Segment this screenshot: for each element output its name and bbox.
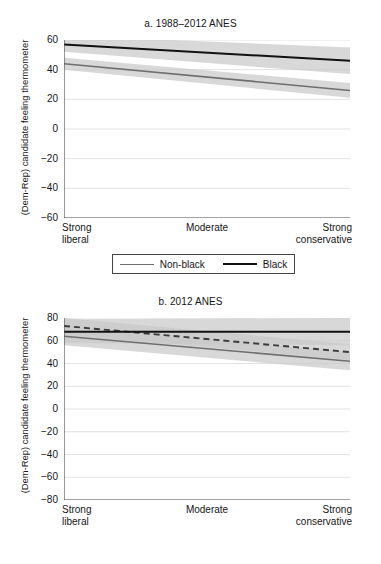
x-tick-label-line: liberal [62,516,162,528]
legend-swatch-icon [120,264,154,265]
y-tick-label: 20 [28,94,58,104]
x-tick-label-line: Moderate [157,222,257,234]
y-tick-label: −60 [28,213,58,223]
panel-a: a. 1988–2012 ANES (Dem-Rep) candidate fe… [0,0,381,282]
x-tick-label-line: Strong [62,504,162,516]
y-tick-label: 40 [28,359,58,369]
legend-item-non-black[interactable]: Non-black [120,259,205,270]
y-tick-label: −20 [28,427,58,437]
chart-canvas [64,40,350,218]
x-tick-label-line: liberal [62,234,162,246]
y-tick-label: 60 [28,336,58,346]
panel-a-legend: Non-blackBlack [112,254,295,274]
y-tick-label: −40 [28,450,58,460]
y-tick-label: 20 [28,381,58,391]
y-tick-label: 0 [28,404,58,414]
x-tick-label-strong-conservative: Strongconservative [252,504,352,527]
figure-root: a. 1988–2012 ANES (Dem-Rep) candidate fe… [0,0,381,564]
panel-a-plot-area [64,40,350,218]
y-tick-label: 60 [28,35,58,45]
x-tick-label-strong-liberal: Strongliberal [62,222,162,245]
x-tick-label-line: Strong [62,222,162,234]
legend-label: Non-black [160,259,205,270]
panel-b-title: b. 2012 ANES [0,296,381,307]
x-tick-label-strong-conservative: Strongconservative [252,222,352,245]
legend-item-black[interactable]: Black [223,259,287,270]
chart-canvas [64,318,350,500]
y-tick-label: −20 [28,154,58,164]
panel-a-title: a. 1988–2012 ANES [0,18,381,29]
legend-label: Black [263,259,287,270]
y-tick-label: −80 [28,495,58,505]
panel-b: b. 2012 ANES (Dem-Rep) candidate feeling… [0,282,381,564]
x-tick-label-moderate: Moderate [157,504,257,516]
x-tick-label-line: Moderate [157,504,257,516]
y-tick-label: 40 [28,65,58,75]
x-tick-label-strong-liberal: Strongliberal [62,504,162,527]
panel-b-plot-area [64,318,350,500]
x-tick-label-line: Strong [252,504,352,516]
x-tick-label-moderate: Moderate [157,222,257,234]
y-tick-label: −40 [28,183,58,193]
legend-swatch-icon [223,263,257,265]
y-tick-label: 80 [28,313,58,323]
y-tick-label: −60 [28,472,58,482]
y-tick-label: 0 [28,124,58,134]
x-tick-label-line: conservative [252,234,352,246]
x-tick-label-line: conservative [252,516,352,528]
x-tick-label-line: Strong [252,222,352,234]
